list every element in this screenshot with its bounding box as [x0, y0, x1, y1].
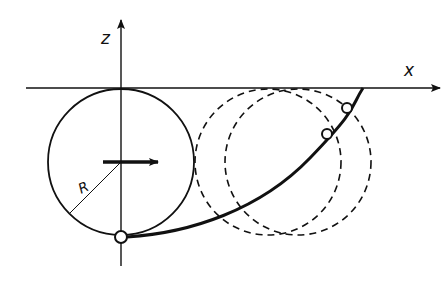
- start-point-marker: [115, 231, 127, 243]
- point-marker-2: [342, 103, 352, 113]
- cycloid-diagram: z x R: [0, 0, 448, 281]
- trace-curve: [127, 88, 363, 237]
- z-axis-label: z: [100, 28, 111, 48]
- dashed-circle-1: [195, 89, 341, 235]
- x-axis-label: x: [403, 60, 415, 80]
- point-marker-1: [322, 129, 332, 139]
